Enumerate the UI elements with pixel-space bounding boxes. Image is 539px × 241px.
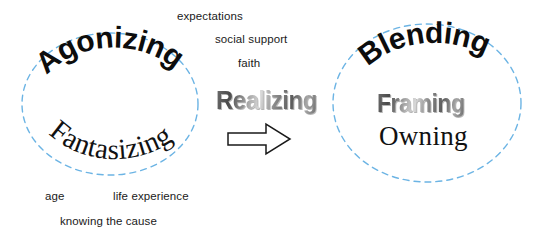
label-age: age bbox=[45, 190, 65, 202]
label-social-support: social support bbox=[215, 33, 287, 45]
label-knowing-the-cause: knowing the cause bbox=[60, 215, 157, 227]
diagram-canvas: Agonizing Fantasizing Blending expectati… bbox=[0, 0, 539, 241]
label-life-experience: life experience bbox=[113, 190, 189, 202]
word-realizing: Realizing bbox=[216, 85, 317, 116]
label-expectations: expectations bbox=[177, 10, 243, 22]
left-dashed-circle bbox=[22, 33, 198, 175]
right-arrow-icon bbox=[228, 124, 290, 154]
word-framing: Framing bbox=[377, 89, 465, 118]
word-blending: Blending bbox=[352, 16, 495, 72]
word-owning: Owning bbox=[379, 121, 468, 152]
label-faith: faith bbox=[238, 57, 260, 69]
word-fantasizing: Fantasizing bbox=[44, 113, 177, 165]
word-agonizing: Agonizing bbox=[29, 20, 190, 79]
